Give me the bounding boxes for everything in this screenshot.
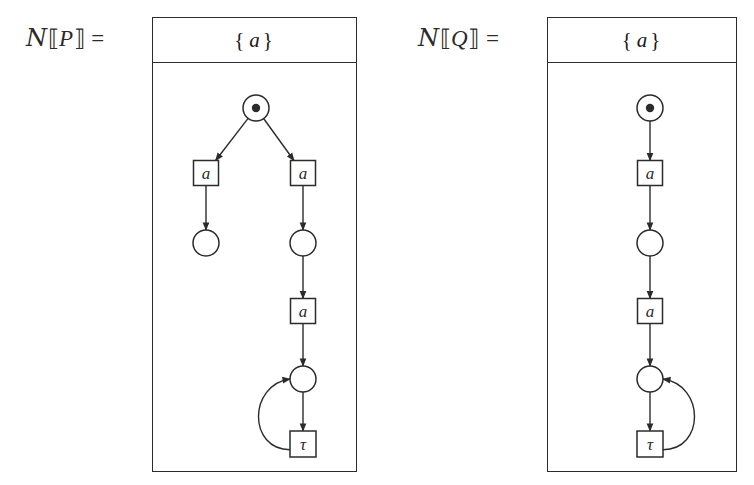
token-marker xyxy=(646,104,654,112)
arc-u2-to-q2 xyxy=(663,379,695,450)
arc-p0-to-t1 xyxy=(264,119,294,161)
right-close-semantic-bracket: ⟧ xyxy=(468,25,480,51)
transition-label: a xyxy=(299,302,308,321)
transition-label: a xyxy=(646,302,655,321)
transition-label: τ xyxy=(300,435,307,454)
right-net-container: { a } aaτ xyxy=(547,17,737,472)
script-n-glyph: N xyxy=(26,24,48,52)
transition-label: a xyxy=(299,164,308,183)
place-loop xyxy=(290,366,316,392)
place-left-branch xyxy=(193,230,219,256)
transition-tau: τ xyxy=(290,431,316,457)
transition-a-first: a xyxy=(638,161,663,186)
right-alphabet-item-a: a xyxy=(634,28,651,53)
transition-a-second: a xyxy=(291,299,316,324)
right-process-name: Q xyxy=(451,26,468,51)
place-middle xyxy=(637,230,663,256)
place-loop xyxy=(637,366,663,392)
transition-a-right: a xyxy=(291,161,316,186)
left-petri-net-svg: aaaτ xyxy=(153,63,358,473)
right-equals-sign: = xyxy=(486,26,499,51)
right-open-semantic-bracket: ⟦ xyxy=(440,25,452,51)
right-open-brace: { xyxy=(622,28,634,53)
right-petri-net-svg: aaτ xyxy=(548,63,738,473)
left-open-semantic-bracket: ⟦ xyxy=(48,25,60,51)
transition-label: τ xyxy=(647,435,654,454)
left-equals-sign: = xyxy=(91,26,104,51)
right-net-graph-area: aaτ xyxy=(548,63,736,473)
figure-canvas: N⟦P⟧ = { a } aaaτ N⟦Q⟧ = { a } aaτ xyxy=(0,0,754,485)
left-process-name: P xyxy=(59,26,74,51)
left-net-container: { a } aaaτ xyxy=(152,17,357,472)
transition-a-second: a xyxy=(638,299,663,324)
transition-tau: τ xyxy=(637,431,663,457)
left-open-brace: { xyxy=(234,28,246,53)
left-alphabet-item-a: a xyxy=(246,28,263,53)
right-net-alphabet-header: { a } xyxy=(548,18,736,63)
place-right-branch xyxy=(290,230,316,256)
arc-t3-to-p3 xyxy=(259,379,291,450)
transition-label: a xyxy=(202,164,211,183)
left-net-equation-label: N⟦P⟧ = xyxy=(26,24,105,52)
token-marker xyxy=(252,104,260,112)
left-net-alphabet-header: { a } xyxy=(153,18,356,63)
right-close-brace: } xyxy=(650,28,662,53)
transition-label: a xyxy=(646,164,655,183)
initial-place xyxy=(243,95,269,121)
right-net-equation-label: N⟦Q⟧ = xyxy=(418,24,499,52)
left-close-brace: } xyxy=(263,28,275,53)
initial-place xyxy=(637,95,663,121)
left-close-semantic-bracket: ⟧ xyxy=(74,25,86,51)
script-n-glyph: N xyxy=(418,24,440,52)
arc-p0-to-t0 xyxy=(216,118,248,160)
left-net-graph-area: aaaτ xyxy=(153,63,356,473)
transition-a-left: a xyxy=(194,161,219,186)
